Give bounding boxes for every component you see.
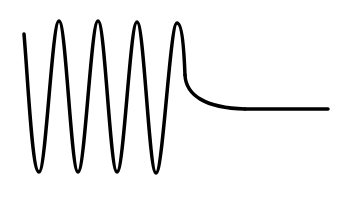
waveform-diagram <box>0 0 357 216</box>
